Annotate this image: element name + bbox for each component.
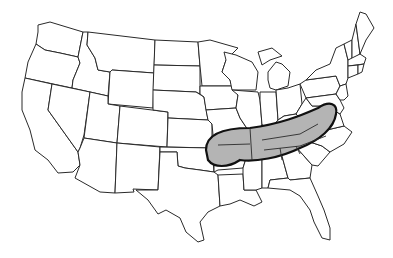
state-montana bbox=[87, 32, 155, 73]
state-south-dakota bbox=[153, 65, 200, 94]
state-michigan bbox=[258, 48, 290, 90]
state-connecticut bbox=[348, 65, 358, 78]
state-kansas bbox=[167, 118, 212, 148]
state-new-mexico bbox=[115, 143, 160, 193]
state-rhode-island bbox=[358, 64, 364, 74]
us-map bbox=[0, 0, 393, 258]
state-arizona bbox=[75, 138, 117, 193]
state-colorado bbox=[117, 106, 168, 147]
state-north-dakota bbox=[154, 40, 200, 66]
state-wyoming bbox=[108, 70, 154, 108]
state-florida bbox=[268, 178, 330, 240]
state-maine bbox=[356, 12, 374, 54]
